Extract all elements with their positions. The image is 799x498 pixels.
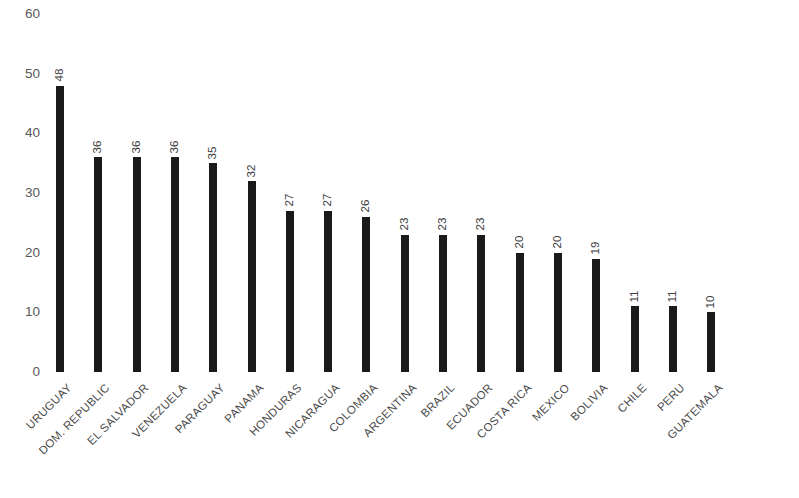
bar-value-label: 36 <box>92 140 104 153</box>
bar-value-label: 36 <box>168 140 180 153</box>
bar-value-label: 20 <box>513 236 525 249</box>
bar-value-label: 32 <box>245 164 257 177</box>
bar[interactable] <box>286 211 294 372</box>
bar[interactable] <box>554 253 562 372</box>
bar[interactable] <box>209 163 217 372</box>
bar-value-label: 48 <box>54 69 66 82</box>
bar-value-label: 20 <box>551 236 563 249</box>
bar-value-label: 23 <box>475 218 487 231</box>
bar-value-label: 23 <box>398 218 410 231</box>
bar[interactable] <box>631 306 639 372</box>
bar[interactable] <box>516 253 524 372</box>
bar-value-label: 27 <box>322 194 334 207</box>
bar[interactable] <box>362 217 370 372</box>
bar[interactable] <box>94 157 102 372</box>
bar[interactable] <box>592 259 600 372</box>
bar-value-label: 23 <box>437 218 449 231</box>
bar-value-label: 36 <box>130 140 142 153</box>
plot-area: 48URUGUAY36DOM. REPUBLIC36EL SALVADOR36V… <box>0 0 799 498</box>
bar[interactable] <box>477 235 485 372</box>
bar[interactable] <box>401 235 409 372</box>
bar-value-label: 26 <box>360 200 372 213</box>
bar[interactable] <box>669 306 677 372</box>
bar[interactable] <box>439 235 447 372</box>
bar-value-label: 19 <box>590 242 602 255</box>
bar-chart: 0102030405060 48URUGUAY36DOM. REPUBLIC36… <box>0 0 799 498</box>
bar[interactable] <box>324 211 332 372</box>
bar[interactable] <box>707 312 715 372</box>
bar-value-label: 35 <box>207 146 219 159</box>
bar[interactable] <box>171 157 179 372</box>
bar-value-label: 11 <box>628 290 640 302</box>
bar[interactable] <box>56 86 64 372</box>
bar-value-label: 27 <box>283 194 295 207</box>
bar-value-label: 10 <box>705 296 717 309</box>
bar[interactable] <box>248 181 256 372</box>
bar-value-label: 11 <box>666 290 678 302</box>
bar[interactable] <box>133 157 141 372</box>
